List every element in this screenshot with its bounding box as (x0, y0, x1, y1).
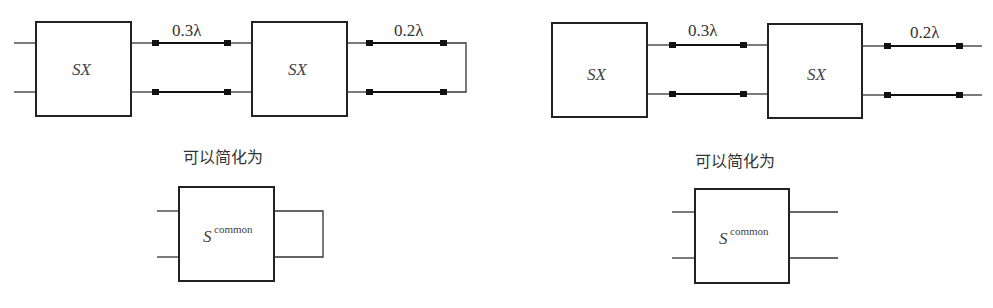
right-cascade-diagram: SX 0.3λ SX 0.2λ (552, 21, 982, 118)
left-simplified-superscript: common (214, 223, 253, 235)
right-line2-length: 0.2λ (910, 23, 940, 42)
right-simplified-superscript: common (730, 225, 769, 237)
right-caption: 可以简化为 (695, 152, 775, 171)
diagram-canvas: SX 0.3λ SX 0.2λ 可以简化为 S common SX (0, 0, 993, 308)
right-block-2-label: SX (807, 65, 827, 84)
left-simplified: 可以简化为 S common (157, 148, 323, 281)
right-line1-length: 0.3λ (688, 21, 718, 40)
left-block-2-label: SX (288, 60, 308, 79)
right-block-1-label: SX (587, 65, 607, 84)
left-caption: 可以简化为 (183, 148, 263, 167)
left-cascade-diagram: SX 0.3λ SX 0.2λ (14, 21, 466, 116)
right-simplified: 可以简化为 S common (672, 152, 838, 283)
right-simplified-symbol: S (719, 229, 728, 248)
left-simplified-symbol: S (203, 227, 212, 246)
left-line2-length: 0.2λ (394, 21, 424, 40)
left-line1-length: 0.3λ (172, 21, 202, 40)
left-block-1-label: SX (72, 60, 92, 79)
